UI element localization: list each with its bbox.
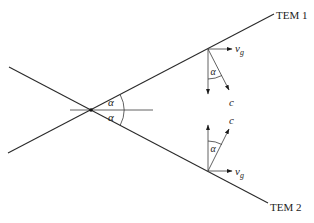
alpha-label-upper: α bbox=[211, 66, 217, 77]
tem1-wavefront-line bbox=[8, 14, 274, 153]
alpha-label-lower: α bbox=[211, 143, 217, 154]
lower-vector-group: α vg c bbox=[208, 114, 244, 180]
lower-vg-label: vg bbox=[235, 165, 244, 180]
alpha-label-lower-center: α bbox=[108, 111, 114, 123]
diagram-canvas: α α α vg c α vg c TEM 1 TEM 2 bbox=[0, 0, 314, 223]
te-mode-wave-diagram: α α α vg c α vg c TEM 1 TEM 2 bbox=[0, 0, 314, 223]
upper-c-label: c bbox=[229, 96, 234, 108]
tem2-wavefront-line bbox=[9, 67, 268, 203]
alpha-label-upper-center: α bbox=[108, 96, 114, 108]
upper-vector-group: α vg c bbox=[208, 42, 244, 108]
lower-c-label: c bbox=[229, 114, 234, 126]
intersection-point bbox=[89, 108, 93, 112]
tem1-label: TEM 1 bbox=[276, 9, 307, 21]
upper-vg-label: vg bbox=[235, 42, 244, 57]
tem2-label: TEM 2 bbox=[270, 201, 301, 213]
